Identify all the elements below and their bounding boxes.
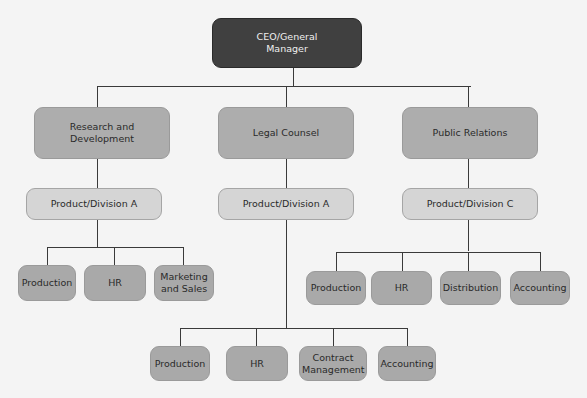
connector-dept1 <box>97 86 98 107</box>
dept-node-public-relations[interactable]: Public Relations <box>402 107 538 159</box>
connector-dept3 <box>468 86 469 107</box>
connector-dept2 <box>286 86 287 107</box>
division-label: Product/Division C <box>427 198 514 210</box>
division-node-a-legal[interactable]: Product/Division A <box>218 188 354 220</box>
unit-label: Accounting <box>380 358 433 370</box>
unit-node-hr[interactable]: HR <box>371 271 432 305</box>
connector-right-bar <box>336 252 541 253</box>
connector-div3 <box>468 158 469 188</box>
connector-mid-bar <box>180 328 408 329</box>
connector-div2 <box>286 158 287 188</box>
unit-label: Contract Management <box>302 352 364 376</box>
unit-node-hr[interactable]: HR <box>84 265 146 301</box>
connector-root <box>293 67 294 86</box>
unit-label: Production <box>155 358 206 370</box>
dept-node-research[interactable]: Research and Development <box>34 107 170 159</box>
connector-right-u2 <box>402 252 403 272</box>
connector-mid-u2 <box>256 328 257 346</box>
unit-label: HR <box>250 358 264 370</box>
unit-label: Production <box>22 277 73 289</box>
connector-right-u3 <box>468 252 469 272</box>
unit-label: Marketing and Sales <box>158 271 210 295</box>
dept-node-legal[interactable]: Legal Counsel <box>218 107 354 159</box>
connector-left-down <box>97 219 98 247</box>
ceo-label: CEO/General Manager <box>247 31 327 55</box>
connector-mid-down <box>286 219 287 328</box>
unit-node-production[interactable]: Production <box>306 271 366 305</box>
connector-dept-bar <box>97 86 471 87</box>
unit-node-accounting[interactable]: Accounting <box>378 346 436 381</box>
connector-mid-u1 <box>180 328 181 346</box>
unit-label: HR <box>108 277 122 289</box>
dept-label: Legal Counsel <box>253 127 319 139</box>
connector-div1 <box>97 158 98 188</box>
connector-left-u2 <box>114 247 115 265</box>
unit-node-distribution[interactable]: Distribution <box>440 271 501 305</box>
connector-right-down <box>468 219 469 251</box>
unit-node-production[interactable]: Production <box>150 346 210 381</box>
unit-label: Accounting <box>513 282 566 294</box>
connector-mid-u4 <box>407 328 408 346</box>
division-node-a-research[interactable]: Product/Division A <box>26 188 162 220</box>
unit-node-accounting[interactable]: Accounting <box>510 271 570 305</box>
unit-label: Distribution <box>443 282 498 294</box>
unit-node-marketing-sales[interactable]: Marketing and Sales <box>154 265 214 301</box>
ceo-node[interactable]: CEO/General Manager <box>212 18 362 68</box>
unit-node-contract-management[interactable]: Contract Management <box>299 346 367 381</box>
unit-node-hr[interactable]: HR <box>226 346 288 381</box>
unit-label: Production <box>311 282 362 294</box>
connector-left-bar <box>47 247 184 248</box>
division-label: Product/Division A <box>243 198 329 210</box>
connector-right-u4 <box>540 252 541 272</box>
connector-left-u1 <box>47 247 48 265</box>
connector-left-u3 <box>183 247 184 265</box>
connector-mid-u3 <box>333 328 334 346</box>
unit-node-production[interactable]: Production <box>18 265 76 301</box>
connector-right-u1 <box>336 252 337 272</box>
division-node-c-public-relations[interactable]: Product/Division C <box>402 188 538 220</box>
unit-label: HR <box>395 282 409 294</box>
dept-label: Public Relations <box>433 127 508 139</box>
division-label: Product/Division A <box>51 198 137 210</box>
dept-label: Research and Development <box>62 121 142 145</box>
